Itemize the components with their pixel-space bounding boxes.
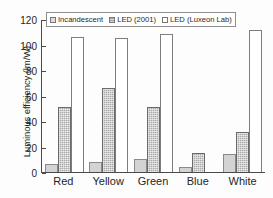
bar-yellow-series-0 [89,162,102,172]
bar-white-series-2 [249,30,262,172]
y-axis-tick-label: 60 [26,91,37,102]
bar-group-yellow [87,20,132,172]
x-axis-label-green: Green [131,175,176,187]
bar-red-series-2 [71,37,84,172]
x-axis-label-yellow: Yellow [86,175,131,187]
x-axis-label-blue: Blue [175,175,220,187]
y-axis-tick [42,173,46,174]
y-axis-tick-label: 20 [26,142,37,153]
bar-group-red [42,20,87,172]
bar-white-series-1 [236,132,249,172]
chart-legend: IncandescentLED (2001)LED (Luxeon Lab) [46,12,236,27]
legend-label: LED (2001) [117,15,156,24]
x-axis-label-white: White [220,175,265,187]
bar-yellow-series-2 [115,38,128,172]
y-axis-tick-label: 100 [20,40,37,51]
bar-yellow-series-1 [102,88,115,172]
legend-label: Incandescent [58,15,103,24]
bar-green-series-0 [134,159,147,172]
y-axis-tick-label: 40 [26,117,37,128]
bar-group-green [131,20,176,172]
bar-red-series-0 [45,164,58,172]
y-axis-tick-label: 80 [26,66,37,77]
legend-swatch-icon [109,17,115,23]
legend-swatch-icon [162,17,168,23]
bar-green-series-1 [147,107,160,172]
legend-entry-0: Incandescent [50,15,103,24]
legend-swatch-icon [50,17,56,23]
legend-entry-2: LED (Luxeon Lab) [162,15,232,24]
bar-red-series-1 [58,107,71,172]
bar-white-series-0 [223,154,236,172]
legend-entry-1: LED (2001) [109,15,156,24]
bar-blue-series-1 [192,153,205,172]
x-axis-label-red: Red [41,175,86,187]
y-axis-tick-label: 120 [20,15,37,26]
bar-chart-figure: Luminous efficiency (lm/W) 0204060801001… [0,0,273,198]
bar-blue-series-0 [179,167,192,172]
y-axis-tick-label: 0 [31,168,37,179]
x-axis-tick-labels: RedYellowGreenBlueWhite [41,175,265,187]
bar-group-blue [176,20,221,172]
bar-groups [42,20,265,172]
legend-label: LED (Luxeon Lab) [170,15,232,24]
plot-area: 020406080100120 [41,20,265,173]
bar-group-white [220,20,265,172]
bar-green-series-2 [160,34,173,172]
